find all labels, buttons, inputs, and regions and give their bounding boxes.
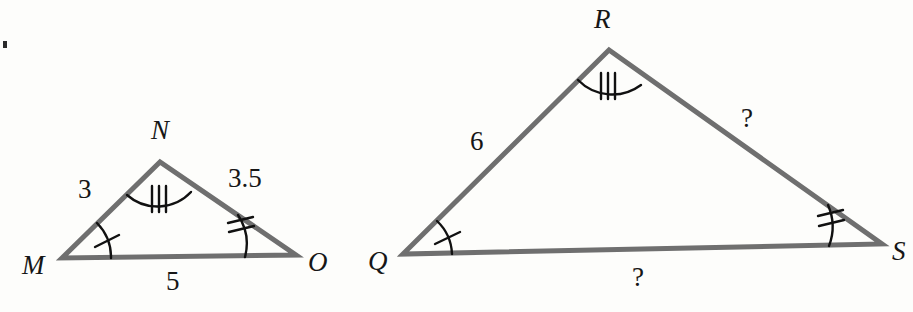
side-label-mo: 5 — [166, 268, 180, 295]
vertex-label-q: Q — [368, 248, 388, 275]
angle-mark-q — [435, 221, 460, 254]
angle-tick-o-2 — [229, 226, 254, 232]
angle-mark-r — [578, 73, 641, 99]
scan-speck-artifact — [3, 41, 7, 48]
geometry-figure-page: M N O 3 3.5 5 Q R S 6 ? ? — [0, 0, 913, 312]
vertex-label-o: O — [308, 249, 328, 276]
angle-arc-r — [578, 80, 641, 94]
side-label-qr: 6 — [470, 128, 484, 155]
side-label-no: 3.5 — [228, 165, 262, 192]
vertex-label-n: N — [151, 117, 169, 144]
vertex-label-m: M — [22, 252, 45, 279]
side-label-rs: ? — [741, 105, 753, 132]
vertex-label-r: R — [594, 6, 611, 33]
angle-mark-n — [127, 186, 191, 212]
triangles-drawing — [0, 0, 913, 312]
side-label-qs: ? — [632, 264, 644, 291]
angle-mark-m — [95, 223, 119, 258]
side-label-mn: 3 — [78, 176, 92, 203]
vertex-label-s: S — [892, 238, 906, 265]
angle-mark-s — [818, 205, 844, 246]
